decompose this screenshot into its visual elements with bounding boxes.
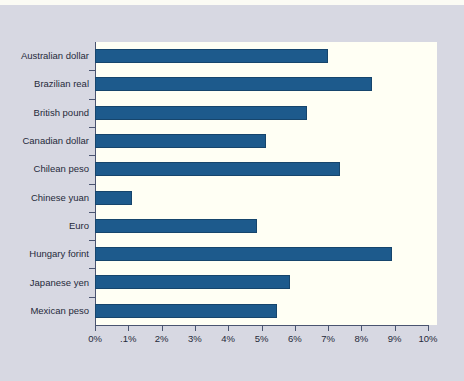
bar-row [95,127,428,155]
bar-row [95,240,428,268]
bar [95,191,132,205]
y-axis-tick [89,268,95,269]
bar-row [95,268,428,296]
x-axis-tick [228,326,229,331]
category-label: Australian dollar [0,50,89,61]
bar [95,49,328,63]
category-label: Mexican peso [0,305,89,316]
bar-row [95,42,428,70]
bar [95,275,290,289]
bar-row [95,99,428,127]
x-axis-tick [328,326,329,331]
chart-figure: Australian dollarBrazilian realBritish p… [0,0,464,381]
bar [95,219,257,233]
x-axis-tick [128,326,129,331]
y-axis-tick [89,127,95,128]
bar-row [95,212,428,240]
top-band [0,0,464,5]
category-label: Canadian dollar [0,135,89,146]
x-axis-tick [262,326,263,331]
category-label: British pound [0,107,89,118]
bar [95,77,372,91]
y-axis-tick [89,155,95,156]
category-label: Japanese yen [0,277,89,288]
x-axis-tick [95,326,96,331]
bar-row [95,155,428,183]
plot-area [95,42,428,325]
bar-row [95,184,428,212]
category-label: Euro [0,220,89,231]
x-axis-tick [195,326,196,331]
y-axis-tick [89,212,95,213]
y-axis-tick [89,297,95,298]
category-label: Brazilian real [0,78,89,89]
bar-row [95,297,428,325]
y-axis-tick [89,184,95,185]
bar [95,106,307,120]
y-axis-tick [89,70,95,71]
x-axis-tick [428,326,429,331]
bar [95,134,266,148]
x-axis-tick-label: 10% [408,333,448,344]
category-label: Hungary forint [0,248,89,259]
category-label: Chilean peso [0,163,89,174]
y-axis-tick [89,99,95,100]
x-axis-tick [162,326,163,331]
y-axis-tick [89,240,95,241]
bar [95,304,277,318]
x-axis-tick [295,326,296,331]
x-axis-tick [361,326,362,331]
x-axis-tick [395,326,396,331]
bar [95,247,392,261]
bar-row [95,70,428,98]
bar [95,162,340,176]
category-label: Chinese yuan [0,192,89,203]
